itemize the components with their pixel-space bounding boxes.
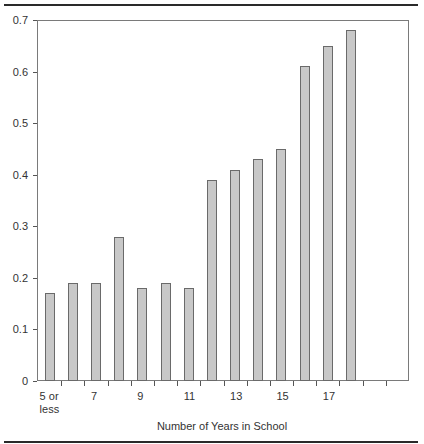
- y-tick: [33, 20, 37, 21]
- bar: [276, 149, 286, 381]
- x-tick: [386, 381, 387, 386]
- bar: [184, 288, 194, 381]
- x-tick: [61, 381, 62, 386]
- y-tick-label: 0.1: [0, 323, 28, 335]
- x-tick: [316, 381, 317, 386]
- x-tick-label: 7: [91, 390, 97, 403]
- y-tick: [33, 329, 37, 330]
- x-tick-label: 13: [230, 390, 242, 403]
- x-tick: [84, 381, 85, 386]
- bar: [91, 283, 101, 381]
- y-tick: [33, 175, 37, 176]
- y-tick: [33, 381, 37, 382]
- bar: [300, 66, 310, 381]
- x-tick: [177, 381, 178, 386]
- y-tick-label: 0: [0, 375, 28, 387]
- x-tick-label: 15: [276, 390, 288, 403]
- bar: [114, 237, 124, 381]
- bar: [161, 283, 171, 381]
- x-tick: [108, 381, 109, 386]
- bar: [68, 283, 78, 381]
- x-tick: [131, 381, 132, 386]
- top-rule: [4, 4, 418, 6]
- x-tick-label: 17: [323, 390, 335, 403]
- bar: [323, 46, 333, 381]
- y-tick-label: 0.7: [0, 14, 28, 26]
- x-tick: [224, 381, 225, 386]
- y-tick: [33, 123, 37, 124]
- y-tick: [33, 226, 37, 227]
- bar: [207, 180, 217, 381]
- x-tick-label: 9: [137, 390, 143, 403]
- y-tick: [33, 278, 37, 279]
- y-tick-label: 0.2: [0, 272, 28, 284]
- y-tick-label: 0.4: [0, 169, 28, 181]
- bar: [253, 159, 263, 381]
- bar: [230, 170, 240, 381]
- x-tick: [154, 381, 155, 386]
- bar: [45, 293, 55, 381]
- x-tick: [363, 381, 364, 386]
- x-tick: [200, 381, 201, 386]
- x-tick: [339, 381, 340, 386]
- y-tick-label: 0.3: [0, 220, 28, 232]
- bottom-rule: [4, 441, 418, 443]
- x-tick-label: 5 or less: [40, 390, 60, 416]
- y-tick-label: 0.6: [0, 66, 28, 78]
- x-axis-title: Number of Years in School: [0, 420, 424, 432]
- x-tick: [293, 381, 294, 386]
- bar: [346, 30, 356, 381]
- x-tick-label: 11: [184, 390, 195, 403]
- bar: [137, 288, 147, 381]
- x-tick: [247, 381, 248, 386]
- y-tick: [33, 72, 37, 73]
- y-tick-label: 0.5: [0, 117, 28, 129]
- x-tick: [270, 381, 271, 386]
